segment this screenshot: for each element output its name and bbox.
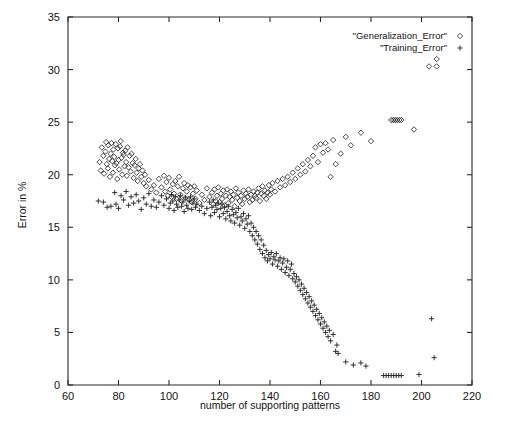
plot-background <box>0 0 508 428</box>
plot-canvas: 6080100120140160180200220 05101520253035… <box>0 0 508 428</box>
y-tick-label: 30 <box>48 64 60 76</box>
y-tick-label: 25 <box>48 116 60 128</box>
x-axis-title: number of supporting patterns <box>200 399 340 411</box>
y-tick-label: 0 <box>54 379 60 391</box>
scatter-plot-figure: 6080100120140160180200220 05101520253035… <box>0 0 508 428</box>
y-tick-label: 5 <box>54 326 60 338</box>
legend-label: "Training_Error" <box>380 42 447 53</box>
x-tick-label: 220 <box>463 390 481 402</box>
x-tick-label: 100 <box>160 390 178 402</box>
y-tick-label: 15 <box>48 221 60 233</box>
y-tick-label: 20 <box>48 169 60 181</box>
x-tick-label: 60 <box>62 390 74 402</box>
x-tick-label: 180 <box>362 390 380 402</box>
legend-label: "Generalization_Error" <box>353 30 447 41</box>
y-tick-label: 10 <box>48 274 60 286</box>
y-tick-label: 35 <box>48 11 60 23</box>
x-tick-label: 80 <box>112 390 124 402</box>
y-axis-title: Error in % <box>16 182 28 229</box>
x-tick-label: 200 <box>412 390 430 402</box>
